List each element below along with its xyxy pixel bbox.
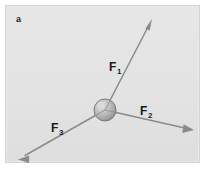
vector-f1-label-subscript: 1 (117, 67, 122, 76)
force-diagram-svg: a F 1 F 2 F 3 (0, 0, 208, 172)
vector-f1-label-main: F (109, 60, 116, 74)
vector-f2-label-subscript: 2 (148, 111, 153, 120)
panel-background (6, 6, 200, 163)
figure-root: a F 1 F 2 F 3 (0, 0, 208, 172)
vector-f3-label-main: F (51, 121, 58, 135)
central-sphere (94, 99, 116, 121)
sphere-highlight (97, 102, 105, 110)
vector-f3-label-subscript: 3 (59, 128, 64, 137)
vector-f2-label-main: F (140, 104, 147, 118)
